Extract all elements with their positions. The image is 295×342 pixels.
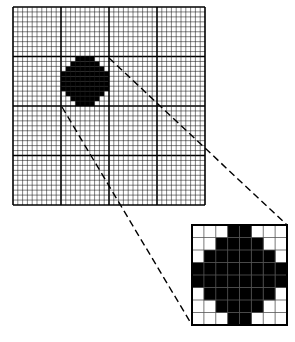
inset-pixel xyxy=(240,238,252,251)
inset-pixel xyxy=(216,263,228,276)
inset-pixel xyxy=(263,250,275,263)
inset-pixel xyxy=(240,300,252,313)
inset-pixel xyxy=(228,238,240,251)
inset-pixel xyxy=(251,250,263,263)
inset-pixel xyxy=(228,275,240,288)
inset-pixel xyxy=(216,275,228,288)
pixel-magnification-diagram xyxy=(0,0,295,342)
inset-pixel xyxy=(251,300,263,313)
inset-pixel xyxy=(228,250,240,263)
inset-pixel xyxy=(263,288,275,301)
diagram-canvas xyxy=(0,0,295,342)
inset-pixel xyxy=(263,275,275,288)
inset-pixel xyxy=(228,263,240,276)
inset-pixel xyxy=(204,250,216,263)
inset-pixel xyxy=(228,300,240,313)
inset-pixel xyxy=(192,275,204,288)
inset-pixel xyxy=(240,313,252,326)
inset-pixel xyxy=(216,250,228,263)
inset-pixel xyxy=(240,288,252,301)
inset-pixel xyxy=(240,275,252,288)
inset-pixel xyxy=(204,275,216,288)
inset-pixel xyxy=(228,313,240,326)
main-pixel-grid xyxy=(13,7,205,205)
magnified-inset xyxy=(192,225,287,325)
inset-pixel xyxy=(251,238,263,251)
inset-pixel xyxy=(204,263,216,276)
inset-pixel xyxy=(251,263,263,276)
inset-pixel xyxy=(251,275,263,288)
inset-pixel xyxy=(228,288,240,301)
inset-pixel xyxy=(251,288,263,301)
inset-pixel xyxy=(228,225,240,238)
inset-pixel xyxy=(263,263,275,276)
inset-pixel xyxy=(192,263,204,276)
inset-pixel xyxy=(216,288,228,301)
inset-pixel xyxy=(240,263,252,276)
inset-pixel xyxy=(204,288,216,301)
inset-pixel xyxy=(216,300,228,313)
inset-pixel xyxy=(240,250,252,263)
inset-pixel xyxy=(275,275,287,288)
inset-pixel xyxy=(240,225,252,238)
inset-pixel xyxy=(216,238,228,251)
inset-pixel xyxy=(275,263,287,276)
